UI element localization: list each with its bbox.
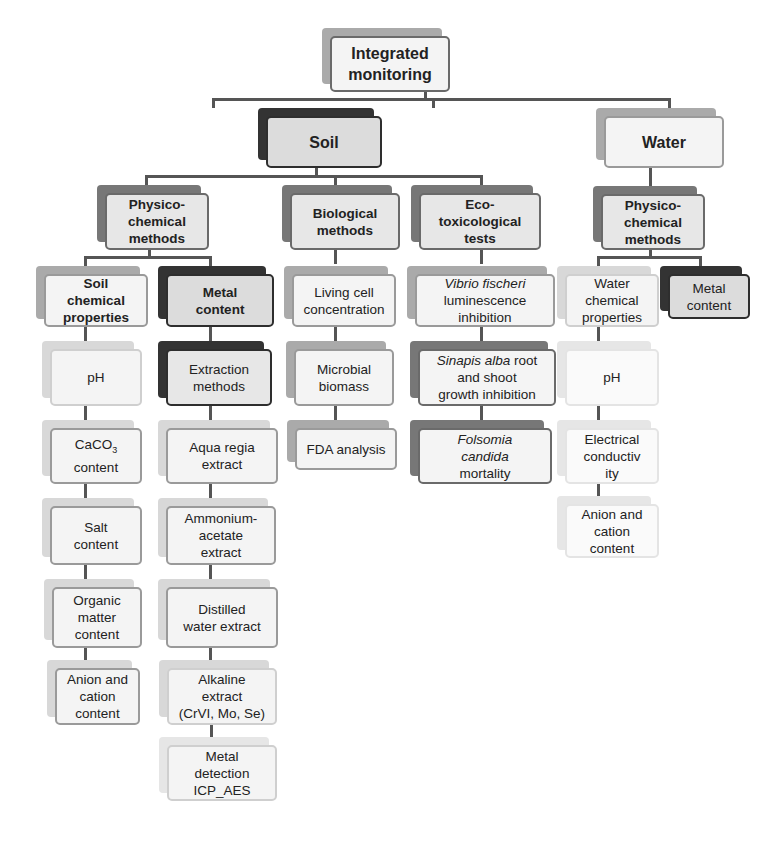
box: Salt content bbox=[50, 506, 142, 565]
node-label: Soil bbox=[309, 132, 338, 153]
node-label: acetate bbox=[185, 527, 258, 544]
node-label: Living cell bbox=[303, 284, 384, 301]
node-label: Metal bbox=[193, 748, 250, 765]
node-label: biomass bbox=[317, 378, 371, 395]
connector-line bbox=[209, 484, 212, 498]
node-label: Biological bbox=[313, 205, 378, 222]
node-label: content bbox=[687, 297, 731, 314]
box: Electrical conductiv ity bbox=[565, 428, 659, 484]
connector-line bbox=[212, 98, 215, 108]
box: Microbial biomass bbox=[294, 349, 394, 406]
node-sinapis-alba: Sinapis alba root and shoot growth inhib… bbox=[410, 341, 556, 406]
box: Living cell concentration bbox=[292, 274, 396, 327]
connector-line bbox=[209, 565, 212, 579]
node-soil-ph: pH bbox=[42, 341, 142, 406]
node-water: Water bbox=[596, 108, 724, 168]
node-label: Anion and bbox=[67, 671, 128, 688]
box: Folsomia candida mortality bbox=[418, 428, 552, 484]
node-soil-anion-cation-content: Anion and cation content bbox=[47, 660, 140, 725]
node-label: cation bbox=[582, 523, 643, 540]
node-soil: Soil bbox=[258, 108, 382, 168]
node-salt-content: Salt content bbox=[42, 498, 142, 565]
node-integrated-monitoring: Integrated monitoring bbox=[322, 28, 450, 92]
node-label: water extract bbox=[183, 618, 260, 635]
connector-line bbox=[480, 327, 483, 341]
box: Water bbox=[604, 116, 724, 168]
box: Biological methods bbox=[290, 193, 400, 250]
node-label: Sinapis alba bbox=[437, 353, 511, 368]
box: Soil chemical properties bbox=[44, 274, 148, 327]
box: Physico- chemical methods bbox=[105, 193, 209, 250]
node-label: ICP_AES bbox=[193, 782, 250, 799]
node-label: chemical bbox=[624, 214, 682, 231]
connector-line bbox=[209, 256, 212, 266]
box: Metal detection ICP_AES bbox=[167, 745, 277, 801]
node-label: candida bbox=[458, 448, 513, 465]
box: Sinapis alba root and shoot growth inhib… bbox=[418, 349, 556, 406]
node-label: Anion and bbox=[582, 506, 643, 523]
node-soil-chemical-properties: Soil chemical properties bbox=[36, 266, 148, 327]
connector-line bbox=[699, 256, 702, 266]
connector-line bbox=[84, 648, 87, 660]
node-label: Soil bbox=[63, 275, 129, 292]
node-label: Organic bbox=[73, 592, 120, 609]
connector-line bbox=[212, 98, 434, 101]
node-label: luminescence bbox=[444, 292, 527, 309]
connector-line bbox=[145, 175, 148, 185]
node-label: matter bbox=[73, 609, 120, 626]
connector-line bbox=[597, 327, 600, 341]
connector-line bbox=[480, 175, 483, 185]
connector-line bbox=[145, 175, 482, 178]
box: Extraction methods bbox=[166, 349, 272, 406]
node-water-ph: pH bbox=[557, 341, 659, 406]
node-water-chemical-properties: Water chemical properties bbox=[557, 266, 659, 327]
node-label: content bbox=[196, 301, 245, 318]
node-label: monitoring bbox=[348, 64, 432, 85]
connector-line bbox=[334, 327, 337, 341]
node-label: methods bbox=[624, 231, 682, 248]
node-soil-metal-content: Metal content bbox=[158, 266, 274, 327]
box: Distilled water extract bbox=[166, 587, 278, 648]
box: Organic matter content bbox=[52, 587, 142, 648]
node-label: Microbial bbox=[317, 361, 371, 378]
node-label: properties bbox=[63, 309, 129, 326]
node-label: Water bbox=[642, 132, 686, 153]
node-metal-detection-icp-aes: Metal detection ICP_AES bbox=[159, 737, 277, 801]
node-label: tests bbox=[439, 230, 522, 247]
node-label: Eco- bbox=[439, 196, 522, 213]
node-label: ity bbox=[583, 465, 640, 482]
node-distilled-water-extract: Distilled water extract bbox=[158, 579, 278, 648]
node-label: Physico- bbox=[624, 197, 682, 214]
box: Soil bbox=[266, 116, 382, 168]
box: Integrated monitoring bbox=[330, 36, 450, 92]
connector-line bbox=[334, 406, 337, 420]
node-label: Water bbox=[582, 275, 642, 292]
node-label: chemical bbox=[63, 292, 129, 309]
node-water-physico-chemical: Physico- chemical methods bbox=[593, 186, 705, 250]
node-label: and shoot bbox=[437, 369, 538, 386]
node-label: Vibrio fischeri bbox=[444, 275, 527, 292]
node-label: Ammonium- bbox=[185, 510, 258, 527]
node-fda-analysis: FDA analysis bbox=[287, 420, 397, 470]
connector-line bbox=[597, 256, 600, 266]
node-ammonium-acetate-extract: Ammonium- acetate extract bbox=[158, 498, 276, 565]
node-label: mortality bbox=[458, 465, 513, 482]
connector-line bbox=[84, 256, 211, 259]
node-water-anion-cation-content: Anion and cation content bbox=[557, 496, 659, 558]
connector-line bbox=[480, 406, 483, 420]
connector-line bbox=[432, 98, 670, 101]
connector-line bbox=[668, 98, 671, 108]
node-alkaline-extract: Alkaline extract (CrVI, Mo, Se) bbox=[159, 660, 277, 725]
node-electrical-conductivity: Electrical conductiv ity bbox=[557, 420, 659, 484]
node-caco3-content: CaCO3 content bbox=[42, 420, 142, 484]
node-label: content bbox=[67, 705, 128, 722]
node-label: Electrical bbox=[583, 431, 640, 448]
node-water-metal-content: Metal content bbox=[660, 266, 750, 319]
node-label: Alkaline bbox=[179, 671, 265, 688]
connector-line bbox=[334, 250, 337, 264]
node-label: chemical bbox=[582, 292, 642, 309]
box: Physico- chemical methods bbox=[601, 194, 705, 250]
connector-line bbox=[84, 484, 87, 498]
box: Anion and cation content bbox=[565, 504, 659, 558]
node-label: extract bbox=[185, 544, 258, 561]
